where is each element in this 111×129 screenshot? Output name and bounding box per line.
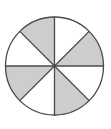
fraction-circle-diagram — [0, 0, 111, 129]
fraction-circle-figure — [0, 0, 111, 129]
